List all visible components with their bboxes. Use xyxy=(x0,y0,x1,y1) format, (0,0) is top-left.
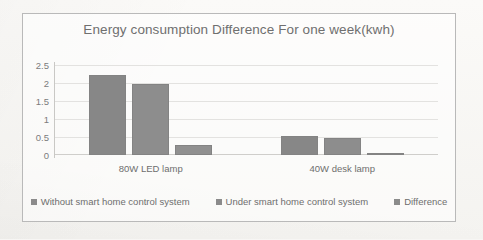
legend-label: Difference xyxy=(404,196,447,207)
y-axis-tick-label: 2.5 xyxy=(36,60,49,71)
legend-item[interactable]: Under smart home control system xyxy=(216,196,369,207)
legend-label: Under smart home control system xyxy=(226,196,369,207)
legend-swatch-icon xyxy=(394,199,400,205)
legend-swatch-icon xyxy=(216,199,222,205)
y-axis-tick-label: 1 xyxy=(44,114,49,125)
chart-legend: Without smart home control systemUnder s… xyxy=(22,196,456,207)
legend-label: Without smart home control system xyxy=(41,196,190,207)
bar xyxy=(281,136,318,155)
category-label: 80W LED lamp xyxy=(119,163,183,174)
bar xyxy=(89,75,126,155)
legend-swatch-icon xyxy=(31,199,37,205)
bar xyxy=(175,145,212,155)
legend-item[interactable]: Without smart home control system xyxy=(31,196,190,207)
bar xyxy=(132,84,169,155)
y-axis-tick-label: 0 xyxy=(44,150,49,161)
legend-item[interactable]: Difference xyxy=(394,196,447,207)
y-axis-tick-label: 0.5 xyxy=(36,132,49,143)
gridline xyxy=(55,65,438,66)
bar xyxy=(324,138,361,155)
y-axis-tick-label: 1.5 xyxy=(36,96,49,107)
chart-title: Energy consumption Difference For one we… xyxy=(22,22,456,37)
plot-area: 00.511.522.5 80W LED lamp40W desk lamp xyxy=(55,65,438,155)
category-label: 40W desk lamp xyxy=(310,163,375,174)
bar xyxy=(367,153,404,155)
y-axis-tick-label: 2 xyxy=(44,78,49,89)
